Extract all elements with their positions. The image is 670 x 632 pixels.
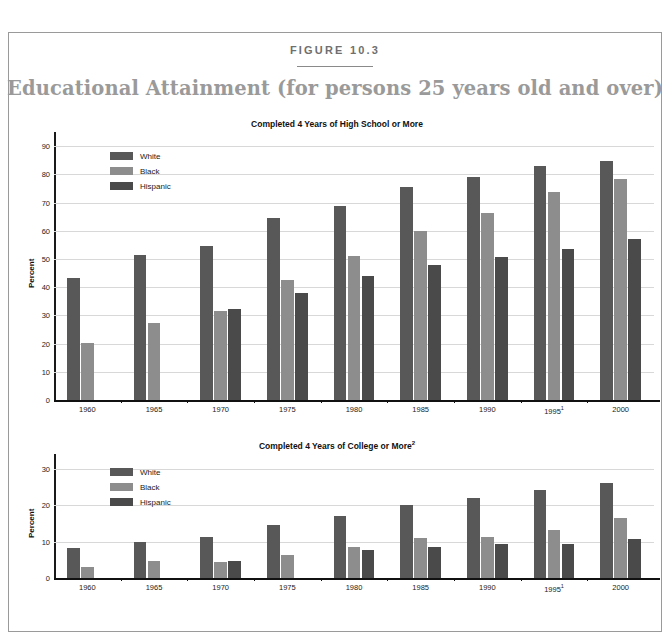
bar [414,231,427,400]
x-axis-tick-mark [187,400,188,403]
bar [348,547,361,578]
x-axis-tick-mark [321,578,322,581]
x-axis-tick-label: 1985 [412,405,429,414]
bar [562,544,575,578]
legend-item[interactable]: White [110,466,171,478]
bar [267,218,280,400]
bar [281,555,294,578]
bar [228,561,241,578]
figure-label: FIGURE 10.3 [0,44,670,56]
y-axis-tick-label: 20 [42,501,50,510]
bar [81,567,94,578]
legend-label: Hispanic [140,182,171,191]
bar [481,213,494,400]
legend-item[interactable]: Black [110,165,171,177]
bar [134,542,147,578]
x-axis-tick-mark [587,578,588,581]
x-axis-tick-mark [254,400,255,403]
x-axis-tick-label: 1965 [146,405,163,414]
legend-swatch-icon [110,498,133,506]
x-axis-tick-label: 2000 [612,405,629,414]
legend-swatch-icon [110,182,133,190]
bar [334,516,347,578]
bar [400,505,413,578]
bar [148,323,161,400]
y-axis-tick-label: 30 [42,464,50,473]
figure-title: Educational Attainment (for persons 25 y… [0,77,670,100]
chart-title-text: Completed 4 Years of College or More [259,441,412,451]
bar [495,257,508,400]
bar [200,246,213,400]
bar [614,179,627,400]
bar [548,192,561,400]
bar [81,343,94,400]
x-axis-tick-label: 19951 [544,583,564,594]
chart-legend: WhiteBlackHispanic [110,466,171,511]
chart-title-text: Completed 4 Years of High School or More [251,119,423,129]
x-axis-tick-label: 1980 [346,583,363,592]
chart-panel-high-school: Completed 4 Years of High School or More… [14,118,660,418]
bar [228,309,241,400]
gridline [54,146,654,147]
legend-item[interactable]: White [110,150,171,162]
bar [428,265,441,400]
bar [267,525,280,578]
bar [548,530,561,578]
bar [481,537,494,578]
chart-title-superscript: 2 [412,440,415,446]
y-axis-tick-label: 30 [42,311,50,320]
x-axis-tick-mark [454,400,455,403]
bar [414,538,427,578]
bar [134,255,147,400]
bar [628,539,641,578]
x-axis-tick-mark [321,400,322,403]
chart-legend: WhiteBlackHispanic [110,150,171,195]
bar [214,311,227,400]
y-axis-tick-label: 60 [42,226,50,235]
x-axis-tick-label: 1970 [212,583,229,592]
legend-swatch-icon [110,468,133,476]
bar [362,550,375,578]
x-axis-tick-label: 1980 [346,405,363,414]
legend-item[interactable]: Hispanic [110,180,171,192]
bar [148,561,161,578]
x-axis-tick-mark [521,578,522,581]
y-axis-tick-label: 0 [46,396,50,405]
bar [67,278,80,400]
y-axis-tick-label: 20 [42,339,50,348]
bar [295,293,308,400]
y-axis-tick-label: 10 [42,367,50,376]
legend-item[interactable]: Hispanic [110,496,171,508]
bar [495,544,508,578]
bar [362,276,375,400]
y-axis-tick-label: 10 [42,537,50,546]
x-axis-tick-mark [121,578,122,581]
bar [534,166,547,400]
bar [534,490,547,578]
bar [467,498,480,578]
legend-item[interactable]: Black [110,481,171,493]
legend-label: Hispanic [140,498,171,507]
gridline [54,231,654,232]
y-axis-line [54,132,56,400]
bar [348,256,361,400]
y-axis-tick-label: 80 [42,170,50,179]
y-axis-label: Percent [27,259,36,288]
x-axis-tick-mark [254,578,255,581]
x-axis-tick-mark [187,578,188,581]
x-axis-tick-label: 1975 [279,405,296,414]
y-axis-label: Percent [27,509,36,538]
y-axis-tick-label: 70 [42,198,50,207]
bar [600,483,613,578]
x-axis-tick-label: 2000 [612,583,629,592]
x-axis-tick-label: 1990 [479,583,496,592]
bar [281,280,294,400]
x-axis-tick-mark [121,400,122,403]
plot-area-high-school: 0102030405060708090Percent19601965197019… [54,132,654,400]
x-axis-tick-label: 1975 [279,583,296,592]
bar [334,206,347,400]
bar [428,547,441,578]
x-axis-tick-label: 1965 [146,583,163,592]
y-axis-line [54,454,56,578]
